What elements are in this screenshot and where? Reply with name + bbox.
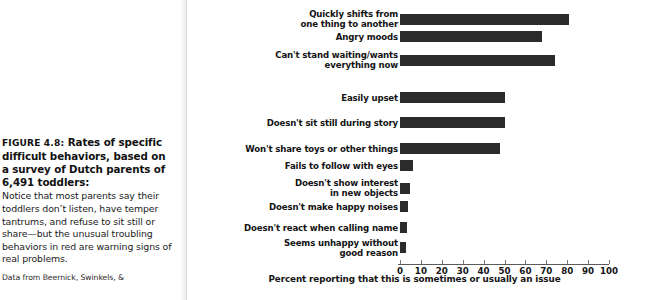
x-axis-tick: [546, 260, 547, 264]
figure-caption-source: Data from Beernick, Swinkels, &: [2, 273, 174, 283]
category-label: Fails to follow with eyes: [198, 161, 398, 171]
bar[interactable]: [400, 14, 569, 25]
bar-chart: Quickly shifts from one thing to another…: [196, 0, 666, 300]
figure-caption: FIGURE 4.8: Rates of specific difficult …: [2, 136, 174, 283]
category-label: Angry moods: [198, 32, 398, 42]
category-label: Easily upset: [198, 93, 398, 103]
bar[interactable]: [400, 117, 505, 128]
page-gutter-line: [186, 0, 187, 300]
figure-caption-column: FIGURE 4.8: Rates of specific difficult …: [0, 0, 178, 300]
x-axis-tick: [484, 260, 485, 264]
category-label: Quickly shifts from one thing to another: [198, 9, 398, 30]
plot-area: Quickly shifts from one thing to another…: [196, 8, 666, 256]
bar[interactable]: [400, 55, 555, 66]
figure-caption-body: Notice that most parents say their toddl…: [2, 190, 174, 266]
category-label: Doesn't react when calling name: [198, 223, 398, 233]
figure-caption-title: FIGURE 4.8: Rates of specific difficult …: [2, 136, 174, 189]
category-label: Doesn't sit still during story: [198, 118, 398, 128]
x-axis-title: Percent reporting that this is sometimes…: [196, 274, 633, 284]
figure-page: FIGURE 4.8: Rates of specific difficult …: [0, 0, 666, 300]
x-axis-tick: [400, 260, 401, 264]
bar[interactable]: [400, 143, 500, 154]
category-label: Won't share toys or other things: [198, 144, 398, 154]
bar[interactable]: [400, 201, 408, 212]
bar[interactable]: [400, 242, 406, 253]
x-axis-tick: [421, 260, 422, 264]
x-axis-tick: [442, 260, 443, 264]
bar[interactable]: [400, 92, 505, 103]
bar[interactable]: [400, 222, 407, 233]
x-axis-tick: [463, 260, 464, 264]
x-axis-line: [398, 264, 609, 265]
x-axis-tick: [525, 260, 526, 264]
figure-number: FIGURE 4.8:: [2, 138, 64, 148]
bar[interactable]: [400, 160, 413, 171]
x-axis-tick: [588, 260, 589, 264]
x-axis-tick: [609, 260, 610, 264]
category-label: Doesn't make happy noises: [198, 202, 398, 212]
x-axis-tick: [505, 260, 506, 264]
x-axis-tick: [567, 260, 568, 264]
category-label: Seems unhappy without good reason: [198, 238, 398, 259]
bar[interactable]: [400, 31, 542, 42]
category-label: Can't stand waiting/wants everything now: [198, 50, 398, 71]
bar[interactable]: [400, 183, 410, 194]
category-label: Doesn't show interest in new objects: [198, 178, 398, 199]
